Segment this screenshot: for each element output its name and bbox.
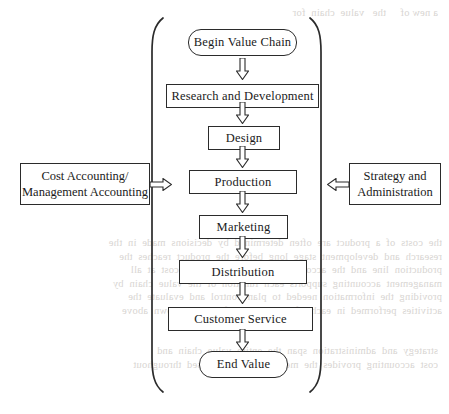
bleed-through-text-top: a new of the value chain for <box>8 6 438 20</box>
chain-node-label: Begin Value Chain <box>194 35 292 50</box>
chain-node-label: Production <box>215 175 272 190</box>
chain-node-label: End Value <box>217 357 270 372</box>
chain-node-label: Customer Service <box>194 312 286 327</box>
side-box-line-2: Administration <box>357 184 433 200</box>
arrow-right-icon-cost-accounting <box>150 178 172 191</box>
arrow-down-icon-begin-to-research <box>236 58 249 80</box>
chain-node-distribution[interactable]: Distribution <box>179 260 307 284</box>
side-box-strategy-administration[interactable]: Strategy and Administration <box>349 163 441 205</box>
side-box-cost-accounting[interactable]: Cost Accounting/ Management Accounting <box>20 163 150 205</box>
value-chain-diagram: a new of the value chain for the costs o… <box>0 0 449 414</box>
arrow-down-icon-customer-service-to-end <box>236 329 249 351</box>
arrow-left-icon-strategy-administration <box>327 178 349 191</box>
arrow-down-icon-design-to-production <box>236 146 249 168</box>
arrow-down-icon-research-to-design <box>236 102 249 124</box>
chain-node-label: Design <box>226 131 263 146</box>
arrow-down-icon-distribution-to-customer-service <box>236 282 249 304</box>
arrow-down-icon-marketing-to-distribution <box>236 236 249 258</box>
chain-node-begin-value-chain[interactable]: Begin Value Chain <box>188 29 297 56</box>
chain-node-end-value[interactable]: End Value <box>199 351 288 378</box>
chain-node-label: Distribution <box>212 265 275 280</box>
chain-node-customer-service[interactable]: Customer Service <box>168 307 313 331</box>
chain-node-label: Marketing <box>217 220 271 235</box>
right-bracket-icon <box>310 18 321 392</box>
left-bracket-icon <box>152 18 163 392</box>
arrow-down-icon-production-to-marketing <box>236 191 249 213</box>
side-box-line-1: Cost Accounting/ <box>41 168 128 184</box>
side-box-line-1: Strategy and <box>364 168 427 184</box>
side-box-line-2: Management Accounting <box>22 184 148 200</box>
